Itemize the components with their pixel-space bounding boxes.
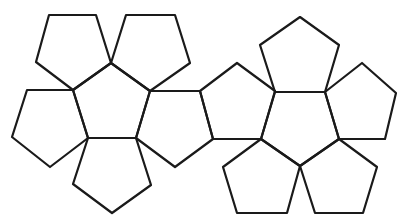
pentagon-face-left-right xyxy=(136,91,213,167)
pentagon-faces xyxy=(12,15,396,213)
pentagon-face-right-top xyxy=(260,17,339,92)
dodecahedron-net xyxy=(0,0,397,220)
pentagon-face-left-left xyxy=(12,90,88,167)
pentagon-face-right-bottom-right xyxy=(300,139,377,213)
pentagon-face-left-top-left xyxy=(36,15,111,90)
pentagon-face-right-bottom-left xyxy=(223,139,300,213)
pentagon-face-left-bottom xyxy=(73,138,151,213)
pentagon-face-right-right xyxy=(325,63,396,139)
diagram-canvas: Dodecahedron net xyxy=(0,0,397,220)
pentagon-face-left-top-right xyxy=(111,15,190,91)
